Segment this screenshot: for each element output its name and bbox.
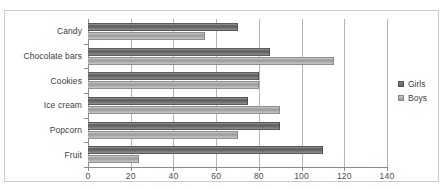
legend-item-boys[interactable]: Boys (398, 91, 427, 105)
chart-title (0, 0, 445, 8)
gridline-100 (302, 19, 303, 167)
bar-boys-chocolate-bars (88, 57, 334, 65)
plot-area (88, 19, 387, 167)
legend-item-girls[interactable]: Girls (398, 77, 427, 91)
x-axis-line (88, 167, 388, 168)
bar-boys-fruit (88, 155, 139, 163)
bar-girls-cookies (88, 72, 259, 80)
x-tick-label-80: 80 (239, 171, 279, 181)
y-tick-0 (84, 44, 88, 45)
bar-girls-fruit (88, 146, 323, 154)
category-label-candy: Candy (0, 26, 82, 36)
x-tick-label-100: 100 (282, 171, 322, 181)
gridline-20 (131, 19, 132, 167)
x-tick-label-40: 40 (153, 171, 193, 181)
category-label-cookies: Cookies (0, 76, 82, 86)
category-label-fruit: Fruit (0, 150, 82, 160)
legend-label-boys: Boys (408, 93, 427, 103)
bar-girls-ice-cream (88, 97, 248, 105)
y-tick-4 (84, 142, 88, 143)
legend-swatch-boys-icon (398, 95, 404, 101)
y-tick-2 (84, 93, 88, 94)
x-tick-label-120: 120 (324, 171, 364, 181)
x-tick-label-60: 60 (196, 171, 236, 181)
chart-frame: GirlsBoys 020406080100120140CandyChocola… (4, 10, 439, 182)
gridline-40 (173, 19, 174, 167)
legend-label-girls: Girls (408, 79, 425, 89)
bar-girls-chocolate-bars (88, 48, 270, 56)
gridline-0 (88, 19, 89, 167)
category-label-popcorn: Popcorn (0, 125, 82, 135)
chart-legend: GirlsBoys (398, 77, 427, 105)
y-tick-3 (84, 118, 88, 119)
bar-boys-ice-cream (88, 106, 280, 114)
category-label-chocolate-bars: Chocolate bars (0, 51, 82, 61)
y-tick-1 (84, 68, 88, 69)
category-label-ice-cream: Ice cream (0, 100, 82, 110)
gridline-80 (259, 19, 260, 167)
legend-swatch-girls-icon (398, 81, 404, 87)
y-tick-5 (84, 167, 88, 168)
x-tick-label-20: 20 (111, 171, 151, 181)
bar-girls-candy (88, 23, 238, 31)
gridline-60 (216, 19, 217, 167)
gridline-140 (387, 19, 388, 167)
x-tick-label-140: 140 (367, 171, 407, 181)
bar-boys-popcorn (88, 131, 238, 139)
gridline-120 (344, 19, 345, 167)
bar-boys-candy (88, 32, 205, 40)
x-tick-label-0: 0 (68, 171, 108, 181)
bar-boys-cookies (88, 81, 259, 89)
bar-girls-popcorn (88, 122, 280, 130)
